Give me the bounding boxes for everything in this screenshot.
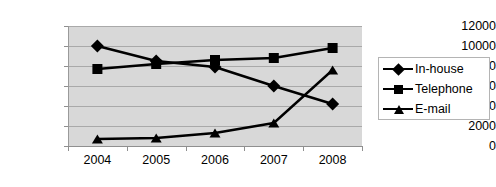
- chart-legend: In-house Telephone E-mail: [378, 57, 490, 120]
- diamond-marker-icon: [383, 62, 413, 76]
- y-tick-label: 12000: [434, 20, 496, 32]
- y-tick-label: 0: [434, 140, 496, 152]
- gridline: [68, 126, 362, 127]
- legend-item-telephone: Telephone: [383, 80, 473, 97]
- x-tick-label: 2004: [68, 153, 127, 167]
- legend-label: In-house: [415, 62, 464, 76]
- y-tick-label: 2000: [434, 120, 496, 132]
- gridline: [68, 46, 362, 47]
- x-tick-mark: [68, 147, 69, 151]
- legend-item-in-house: In-house: [383, 60, 464, 77]
- square-marker-icon: [383, 82, 413, 96]
- gridline: [68, 26, 362, 27]
- y-axis-line: [68, 26, 69, 147]
- x-tick-mark: [127, 147, 128, 151]
- triangle-marker-icon: [383, 102, 413, 116]
- x-tick-mark: [186, 147, 187, 151]
- x-tick-label: 2006: [186, 153, 245, 167]
- x-tick-label: 2005: [127, 153, 186, 167]
- gridline: [68, 86, 362, 87]
- x-tick-label: 2007: [244, 153, 303, 167]
- gridline: [68, 106, 362, 107]
- x-tick-mark: [362, 147, 363, 151]
- x-tick-label: 2008: [303, 153, 362, 167]
- legend-label: E-mail: [415, 102, 450, 116]
- x-tick-mark: [244, 147, 245, 151]
- x-axis-line: [68, 146, 363, 147]
- x-tick-mark: [303, 147, 304, 151]
- y-tick-label: 10000: [434, 40, 496, 52]
- legend-label: Telephone: [415, 82, 473, 96]
- gridline: [68, 66, 362, 67]
- line-chart: 120001000080006000400020000 200420052006…: [0, 0, 496, 187]
- legend-item-e-mail: E-mail: [383, 100, 450, 117]
